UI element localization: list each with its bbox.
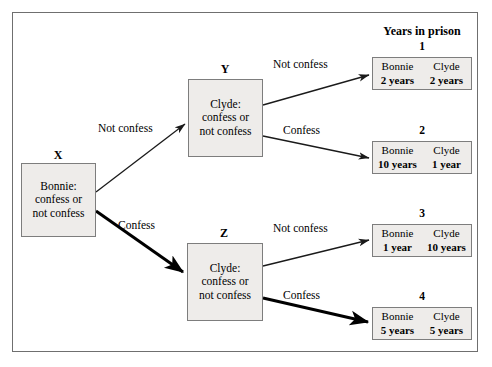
outcome-4-clyde-value: 5 years	[430, 324, 463, 337]
outcome-1-bonnie-name: Bonnie	[382, 60, 414, 73]
edge-label-x-to-y: Not confess	[98, 122, 153, 134]
outcome-number-2: 2	[372, 124, 472, 136]
node-box-y[interactable]: Clyde: confess or not confess	[188, 79, 263, 157]
node-z-line-2: confess or	[202, 275, 249, 289]
edge-z-to-outcome-4	[263, 298, 368, 322]
edge-label-y-to-outcome-2: Confess	[283, 124, 320, 136]
outcome-4-clyde: Clyde 5 years	[422, 308, 471, 339]
outcome-number-4: 4	[372, 290, 472, 302]
edge-label-z-to-outcome-3: Not confess	[273, 222, 328, 234]
outcome-1-bonnie: Bonnie 2 years	[373, 58, 422, 89]
outcome-3-bonnie: Bonnie 1 year	[373, 225, 422, 256]
figure-title: Years in prison	[372, 24, 472, 39]
node-y-line-1: Clyde:	[210, 98, 241, 112]
outcome-4-bonnie: Bonnie 5 years	[373, 308, 422, 339]
outcome-1-clyde-name: Clyde	[433, 60, 459, 73]
outcome-2-clyde-name: Clyde	[433, 144, 459, 157]
node-z-line-3: not confess	[199, 289, 251, 303]
outcome-1-clyde: Clyde 2 years	[422, 58, 471, 89]
outcome-4-bonnie-name: Bonnie	[382, 310, 414, 323]
node-label-y: Y	[205, 62, 245, 77]
outcome-3-clyde-name: Clyde	[433, 227, 459, 240]
outcome-4-bonnie-value: 5 years	[381, 324, 414, 337]
outcome-number-1: 1	[372, 40, 472, 52]
edge-x-to-y	[96, 124, 185, 192]
edge-label-x-to-z: Confess	[118, 219, 155, 231]
outcome-2-clyde: Clyde 1 year	[422, 142, 471, 173]
node-x-line-2: confess or	[35, 193, 82, 207]
outcome-box-2[interactable]: Bonnie 10 years Clyde 1 year	[372, 141, 472, 174]
node-box-z[interactable]: Clyde: confess or not confess	[187, 243, 263, 321]
outcome-box-1[interactable]: Bonnie 2 years Clyde 2 years	[372, 57, 472, 90]
outcome-4-clyde-name: Clyde	[433, 310, 459, 323]
edge-y-to-outcome-1	[263, 75, 369, 105]
outcome-3-bonnie-value: 1 year	[383, 241, 412, 254]
outcome-2-bonnie-value: 10 years	[378, 158, 417, 171]
outcome-3-clyde-value: 10 years	[427, 241, 466, 254]
edge-z-to-outcome-3	[263, 240, 369, 266]
node-label-x: X	[38, 148, 78, 163]
outcome-3-clyde: Clyde 10 years	[422, 225, 471, 256]
edge-label-y-to-outcome-1: Not confess	[273, 58, 328, 70]
figure-canvas: X Bonnie: confess or not confess Y Clyde…	[0, 0, 492, 367]
node-y-line-2: confess or	[202, 111, 249, 125]
outcome-2-bonnie-name: Bonnie	[382, 144, 414, 157]
outcome-3-bonnie-name: Bonnie	[382, 227, 414, 240]
outcome-1-clyde-value: 2 years	[430, 74, 463, 87]
node-y-line-3: not confess	[199, 125, 251, 139]
outcome-box-3[interactable]: Bonnie 1 year Clyde 10 years	[372, 224, 472, 257]
outcome-box-4[interactable]: Bonnie 5 years Clyde 5 years	[372, 307, 472, 340]
node-box-x[interactable]: Bonnie: confess or not confess	[21, 163, 96, 237]
outcome-2-bonnie: Bonnie 10 years	[373, 142, 422, 173]
node-x-line-3: not confess	[32, 207, 84, 221]
outcome-number-3: 3	[372, 207, 472, 219]
node-z-line-1: Clyde:	[210, 262, 241, 276]
edge-y-to-outcome-2	[263, 136, 369, 158]
outcome-1-bonnie-value: 2 years	[381, 74, 414, 87]
node-label-z: Z	[204, 226, 244, 241]
outcome-2-clyde-value: 1 year	[432, 158, 461, 171]
edge-label-z-to-outcome-4: Confess	[283, 289, 320, 301]
node-x-line-1: Bonnie:	[40, 180, 76, 194]
